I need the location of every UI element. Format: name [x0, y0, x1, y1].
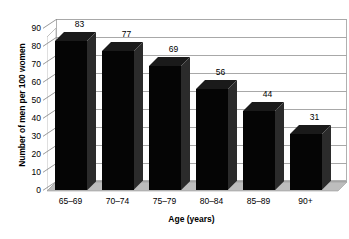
bar-value-label: 77 — [105, 30, 149, 39]
bar-front-face — [290, 134, 322, 190]
y-tick-label: 10 — [19, 168, 41, 177]
bar — [149, 66, 181, 190]
bar-value-label: 69 — [152, 45, 196, 54]
bar-front-face — [196, 89, 228, 190]
y-tick-label: 0 — [19, 186, 41, 195]
bar-front-face — [102, 51, 134, 190]
bar-value-label: 56 — [199, 68, 243, 77]
bar-side-face — [322, 125, 331, 190]
bar-side-face — [181, 57, 190, 190]
bar-value-label: 44 — [246, 90, 290, 99]
y-tick-label: 90 — [19, 24, 41, 33]
bar — [243, 111, 275, 190]
bar — [102, 51, 134, 190]
bar-front-face — [55, 41, 87, 190]
x-tick-label: 85–89 — [235, 196, 283, 206]
bar-side-face — [134, 42, 143, 190]
bar-side-face — [87, 32, 96, 190]
bar-front-face — [243, 111, 275, 190]
y-tick-label: 80 — [19, 42, 41, 51]
x-tick-label: 75–79 — [141, 196, 189, 206]
x-tick-label: 70–74 — [94, 196, 142, 206]
bar-side-face — [228, 80, 237, 190]
bar-value-label: 83 — [58, 20, 102, 29]
bar — [290, 134, 322, 190]
y-tick-label: 40 — [19, 114, 41, 123]
y-tick-label: 20 — [19, 150, 41, 159]
bar — [55, 41, 87, 190]
bar-side-face — [275, 102, 284, 190]
x-tick-label: 90+ — [282, 196, 330, 206]
y-tick-label: 70 — [19, 60, 41, 69]
y-tick-label: 30 — [19, 132, 41, 141]
bar-chart: Number of men per 100 women 010203040506… — [0, 0, 349, 239]
x-tick-label: 80–84 — [188, 196, 236, 206]
y-tick-label: 50 — [19, 96, 41, 105]
bar-front-face — [149, 66, 181, 190]
bar — [196, 89, 228, 190]
x-tick-label: 65–69 — [47, 196, 95, 206]
bar-value-label: 31 — [293, 113, 337, 122]
y-tick-label: 60 — [19, 78, 41, 87]
x-axis-title: Age (years) — [40, 214, 343, 224]
